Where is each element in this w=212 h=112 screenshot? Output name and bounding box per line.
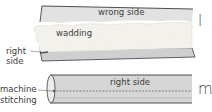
wadding-label: wadding xyxy=(56,28,92,38)
stitch-start-dot xyxy=(53,90,55,92)
wrong-side-label: wrong side xyxy=(98,7,144,17)
right-side-label-m: right side xyxy=(110,77,150,87)
step-letter-m: m xyxy=(198,82,212,97)
machine-stitching-label: machine stitching xyxy=(0,84,42,106)
right-side-leader-line xyxy=(30,51,40,52)
step-letter-l: l xyxy=(198,14,202,29)
right-side-label-l: right side xyxy=(6,46,28,66)
stitch-mark xyxy=(40,52,48,53)
tube-opening xyxy=(47,75,55,103)
